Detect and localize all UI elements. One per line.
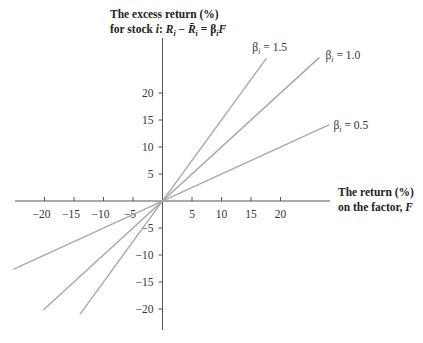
x-tick-label: 5: [189, 208, 195, 220]
series-lines: [13, 57, 329, 314]
x-tick-label: −10: [92, 208, 110, 220]
series-label-beta-1: βi = 1.0: [325, 49, 360, 64]
series-label-beta-0-5: βi = 0.5: [333, 119, 368, 134]
series-labels: βi = 1.5βi = 1.0βi = 0.5: [252, 41, 368, 133]
x-tick-label: 10: [216, 208, 228, 220]
y-tick-label: 10: [142, 141, 154, 153]
y-axis-title-line1: The excess return (%): [110, 8, 219, 21]
x-axis-title-line2: on the factor, F: [338, 201, 413, 213]
y-tick-label: 5: [148, 168, 154, 180]
x-axis-title-line1: The return (%): [338, 186, 414, 199]
y-tick-label: −10: [136, 249, 154, 261]
y-axis-title: The excess return (%) for stock i: Ri − …: [110, 8, 226, 38]
x-tick-label: 15: [245, 208, 257, 220]
y-axis-title-line2: for stock i: Ri − R̄i = βiF: [110, 23, 226, 38]
y-tick-label: 15: [142, 114, 154, 126]
series-line-beta-0-5: [13, 125, 329, 270]
series-label-beta-1-5: βi = 1.5: [252, 41, 287, 56]
y-tick-label: −15: [136, 276, 154, 288]
x-axis-title: The return (%) on the factor, F: [338, 186, 414, 213]
y-tick-label: 20: [142, 87, 154, 99]
x-tick-label: 20: [275, 208, 287, 220]
series-line-beta-1: [43, 57, 319, 310]
x-tick-label: −20: [33, 208, 51, 220]
x-tick-label: −15: [62, 208, 80, 220]
y-tick-label: −20: [136, 303, 154, 315]
axes: [15, 38, 330, 330]
series-line-beta-1-5: [80, 58, 266, 314]
factor-model-chart: −20−15−10−551015202015105−5−10−15−20 βi …: [0, 0, 423, 343]
